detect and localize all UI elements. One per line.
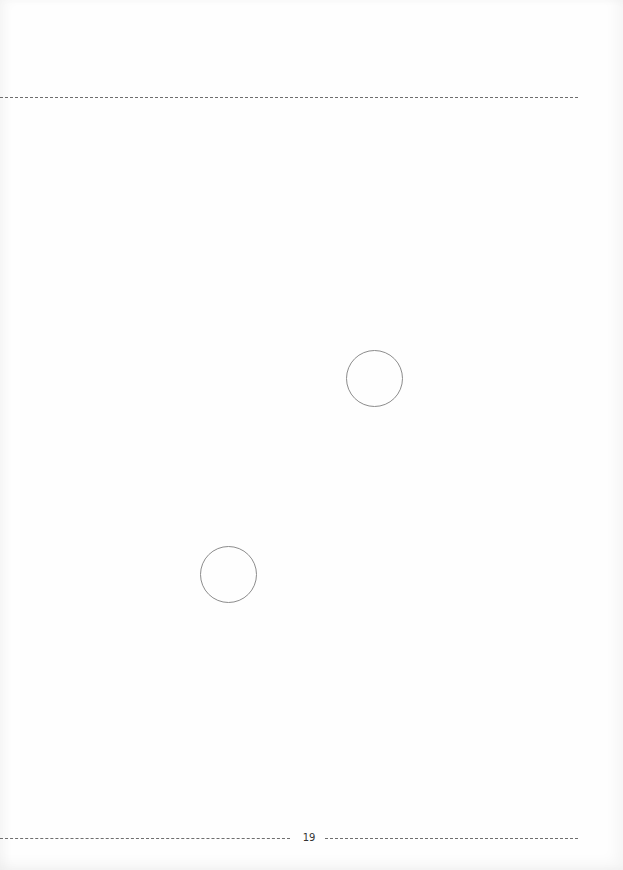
page-number: 19 xyxy=(298,830,320,846)
circle-shape-upper xyxy=(346,350,403,407)
footer-dashed-rule-left xyxy=(0,838,290,839)
circle-shape-lower xyxy=(200,546,257,603)
header-dashed-rule xyxy=(0,97,578,98)
footer-dashed-rule-right xyxy=(325,838,578,839)
document-page: 19 xyxy=(0,0,623,870)
